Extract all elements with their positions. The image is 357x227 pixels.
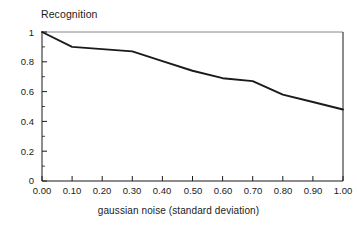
- x-tick-label-1_00: 1.00: [329, 185, 357, 196]
- x-tick-label-0_00: 0.00: [28, 185, 56, 196]
- y-tick-label-0_8: 0.8: [2, 56, 34, 67]
- x-tick-label-0_60: 0.60: [209, 185, 237, 196]
- y-tick-label-0_6: 0.6: [2, 86, 34, 97]
- axis-lines: [42, 32, 343, 181]
- x-tick-label-0_90: 0.90: [299, 185, 327, 196]
- x-tick-label-0_10: 0.10: [58, 185, 86, 196]
- recognition-vs-noise-chart: Recognition: [0, 0, 357, 227]
- x-axis-title: gaussian noise (standard deviation): [0, 205, 357, 216]
- x-tick-label-0_30: 0.30: [118, 185, 146, 196]
- x-tick-label-0_50: 0.50: [179, 185, 207, 196]
- y-tick-label-1: 1: [2, 27, 34, 38]
- x-tick-label-0_80: 0.80: [269, 185, 297, 196]
- x-tick-label-0_20: 0.20: [88, 185, 116, 196]
- recognition-series-line: [42, 32, 343, 109]
- y-tick-label-0_4: 0.4: [2, 116, 34, 127]
- x-tick-label-0_40: 0.40: [148, 185, 176, 196]
- x-tick-label-0_70: 0.70: [239, 185, 267, 196]
- x-axis-ticks: [42, 176, 343, 181]
- y-tick-label-0_2: 0.2: [2, 146, 34, 157]
